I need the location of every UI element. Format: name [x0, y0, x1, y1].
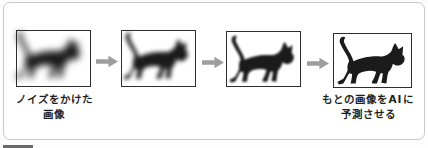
cat-silhouette-icon [228, 34, 298, 84]
figure-diffusion-denoising: ノイズをかけた 画像 もとの画像をAIに 予測させる [0, 0, 428, 148]
right-arrow-icon [202, 56, 224, 69]
caption-line: 画像 [4, 107, 104, 122]
caption-line: もとの画像をAIに [308, 92, 428, 107]
noisy-image-panel-2 [121, 30, 196, 87]
caption-line: 予測させる [308, 107, 428, 122]
noisy-image-panel-3 [226, 31, 301, 87]
blurred-cat-silhouette-icon [122, 31, 192, 81]
caption-noised-image: ノイズをかけた 画像 [4, 92, 104, 121]
noisy-image-panel-1 [16, 30, 91, 87]
section-marker-bar [3, 145, 33, 148]
caption-line: ノイズをかけた [4, 92, 104, 107]
right-arrow-icon [307, 57, 329, 70]
right-arrow-icon [96, 55, 118, 68]
cat-silhouette-icon [336, 35, 409, 86]
clean-image-panel-4 [333, 33, 412, 88]
caption-predict-original: もとの画像をAIに 予測させる [308, 92, 428, 121]
blurred-cat-silhouette-icon [14, 30, 84, 80]
